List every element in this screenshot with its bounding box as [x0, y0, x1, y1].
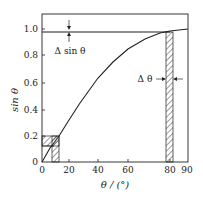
- sin-theta-chart: 0 0.2 0.4 0.6 0.8 1.0 0 20 40 60 80 90 s…: [0, 0, 203, 203]
- svg-text:20: 20: [63, 165, 75, 175]
- svg-text:0.2: 0.2: [24, 131, 38, 141]
- svg-text:1.0: 1.0: [24, 24, 39, 34]
- delta-theta-annotation: Δ θ: [138, 74, 183, 84]
- svg-text:Δ sin θ: Δ sin θ: [55, 46, 86, 56]
- svg-text:0.8: 0.8: [24, 50, 39, 60]
- svg-text:0.6: 0.6: [24, 78, 39, 88]
- svg-text:0: 0: [32, 157, 38, 167]
- svg-text:60: 60: [122, 165, 134, 175]
- x-axis-label: θ / (°): [101, 179, 130, 190]
- x-tick-labels: 0 20 40 60 80 90: [39, 165, 193, 175]
- y-tick-labels: 0 0.2 0.4 0.6 0.8 1.0: [24, 24, 39, 167]
- svg-text:90: 90: [181, 165, 193, 175]
- svg-text:80: 80: [164, 165, 176, 175]
- svg-text:0: 0: [39, 165, 45, 175]
- hatched-strip-high-vertical: [166, 32, 173, 162]
- hatched-strip-low-horizontal: [42, 136, 59, 146]
- svg-text:Δ θ: Δ θ: [138, 74, 153, 84]
- delta-sin-annotation: Δ sin θ: [55, 20, 86, 56]
- svg-text:40: 40: [92, 165, 104, 175]
- y-axis-label: sin θ: [9, 88, 20, 112]
- svg-text:0.4: 0.4: [24, 105, 39, 115]
